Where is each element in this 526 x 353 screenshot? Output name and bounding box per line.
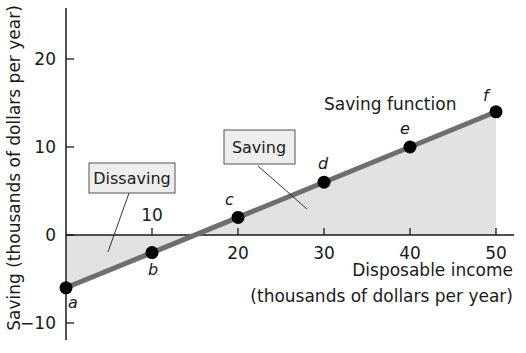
point-label-d: d xyxy=(318,154,329,173)
x-tick-label: 30 xyxy=(313,243,335,263)
data-point-c xyxy=(232,211,245,224)
y-tick-label: 20 xyxy=(34,49,56,69)
dissaving-label: Dissaving xyxy=(93,169,170,188)
y-tick-label: 10 xyxy=(34,137,56,157)
data-point-f xyxy=(490,105,503,118)
x-tick-label: 20 xyxy=(227,243,249,263)
y-tick-label: 0 xyxy=(45,225,56,245)
x-axis-label-line1: Disposable income xyxy=(352,260,513,280)
series-label: Saving function xyxy=(324,94,456,114)
point-label-a: a xyxy=(68,293,78,312)
point-label-f: f xyxy=(483,86,491,105)
data-point-d xyxy=(318,176,331,189)
y-axis-label: Saving (thousands of dollars per year) xyxy=(4,5,24,331)
point-label-c: c xyxy=(225,190,234,209)
x-axis-label-line2: (thousands of dollars per year) xyxy=(250,286,513,306)
data-point-b xyxy=(146,246,159,259)
saving-function-chart: −10010201020304050 abcdef DissavingSavin… xyxy=(0,0,526,353)
x-tick-label: 10 xyxy=(141,205,163,225)
point-label-e: e xyxy=(400,119,410,138)
point-label-b: b xyxy=(148,260,158,279)
data-point-e xyxy=(404,141,417,154)
saving-label: Saving xyxy=(232,138,286,157)
y-tick-label: −10 xyxy=(20,313,56,333)
